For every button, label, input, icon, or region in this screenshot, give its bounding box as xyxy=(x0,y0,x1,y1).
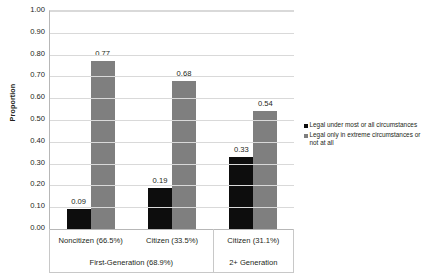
bar xyxy=(91,61,115,229)
legend-label: Legal under most or all circumstances xyxy=(310,121,418,129)
y-axis-tick-label: 0.20 xyxy=(16,180,45,188)
bar-chart: Proportion 1.000.900.800.700.600.500.400… xyxy=(0,0,423,277)
y-axis-tick-label: 0.10 xyxy=(16,202,45,210)
category-label: Citizen (33.5%) xyxy=(131,229,212,251)
plot-area: 0.090.190.330.770.680.54 xyxy=(49,10,294,229)
group-label: 2+ Generation xyxy=(213,251,294,273)
y-axis-tick-label: 0.40 xyxy=(16,137,45,145)
gridline xyxy=(50,98,294,99)
y-axis-tick-label: 0.00 xyxy=(16,224,45,232)
y-axis-tick-label: 0.60 xyxy=(16,93,45,101)
gridline xyxy=(50,55,294,56)
category-row-primary: Noncitizen (66.5%)Citizen (33.5%)Citizen… xyxy=(50,229,293,251)
bar xyxy=(148,188,172,229)
bar xyxy=(67,209,91,229)
bar-value-label: 0.54 xyxy=(245,100,285,108)
gridline xyxy=(50,76,294,77)
group-separator xyxy=(213,229,214,273)
y-axis-tick-labels: 1.000.900.800.700.600.500.400.300.200.10… xyxy=(16,0,45,277)
legend-item: Legal only in extreme circumstances or n… xyxy=(304,131,423,147)
legend-swatch-icon xyxy=(304,124,308,128)
y-axis-tick-label: 1.00 xyxy=(16,6,45,14)
group-label: First-Generation (68.9%) xyxy=(50,251,213,273)
chart-legend: Legal under most or all circumstancesLeg… xyxy=(304,121,423,150)
category-label: Citizen (31.1%) xyxy=(213,229,294,251)
y-axis-tick-label: 0.80 xyxy=(16,50,45,58)
legend-swatch-icon xyxy=(304,134,308,138)
gridline xyxy=(50,142,294,143)
gridline xyxy=(50,120,294,121)
bar xyxy=(253,111,277,229)
legend-item: Legal under most or all circumstances xyxy=(304,121,423,129)
gridline xyxy=(50,164,294,165)
gridline xyxy=(50,11,294,12)
category-label: Noncitizen (66.5%) xyxy=(50,229,131,251)
y-axis-tick-label: 0.30 xyxy=(16,159,45,167)
legend-label: Legal only in extreme circumstances or n… xyxy=(310,131,423,147)
y-axis-tick-label: 0.90 xyxy=(16,28,45,36)
category-row-group: First-Generation (68.9%)2+ Generation xyxy=(50,251,293,273)
gridline xyxy=(50,33,294,34)
gridline xyxy=(50,185,294,186)
gridline xyxy=(50,207,294,208)
y-axis-tick-label: 0.50 xyxy=(16,115,45,123)
category-axis: Noncitizen (66.5%)Citizen (33.5%)Citizen… xyxy=(49,229,294,273)
y-axis-tick-label: 0.70 xyxy=(16,71,45,79)
bar xyxy=(229,157,253,229)
